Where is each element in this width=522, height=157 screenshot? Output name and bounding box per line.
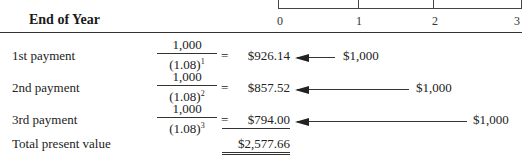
arrow-left-icon — [297, 57, 335, 58]
discount-fraction-3: 1,000 (1.08)3 — [157, 102, 217, 136]
discount-fraction-2: 1,000 (1.08)2 — [157, 70, 217, 104]
row-label-3rd-payment: 3rd payment — [12, 112, 77, 128]
total-label: Total present value — [12, 136, 111, 152]
row-label-1st-payment: 1st payment — [12, 48, 75, 64]
timeline-tick-2: 2 — [432, 14, 438, 29]
present-value-2: $857.52 — [222, 80, 290, 96]
present-value-1: $926.14 — [222, 48, 290, 64]
discount-fraction-1: 1,000 (1.08)1 — [157, 38, 217, 72]
timeline-divider-2 — [433, 0, 434, 9]
header-separator — [0, 32, 522, 33]
arrow-left-icon — [297, 89, 409, 90]
fraction-denominator: (1.08)3 — [157, 118, 217, 136]
fraction-numerator: 1,000 — [157, 38, 217, 54]
arrow-left-icon — [297, 121, 467, 122]
present-value-3: $794.00 — [222, 112, 290, 129]
row-label-2nd-payment: 2nd payment — [12, 80, 80, 96]
timeline-tick-0: 0 — [277, 14, 283, 29]
denominator-exponent: 1 — [201, 57, 205, 66]
fraction-numerator: 1,000 — [157, 102, 217, 118]
timeline-box — [278, 0, 522, 9]
denominator-exponent: 3 — [201, 121, 205, 130]
timeline-tick-3: 3 — [514, 14, 520, 29]
timeline-tick-1: 1 — [356, 14, 362, 29]
total-present-value: $2,577.66 — [222, 136, 290, 155]
denominator-exponent: 2 — [201, 89, 205, 98]
cash-flow-year-3: $1,000 — [473, 112, 509, 128]
fraction-numerator: 1,000 — [157, 70, 217, 86]
cash-flow-year-1: $1,000 — [343, 48, 379, 64]
cash-flow-year-2: $1,000 — [416, 80, 452, 96]
denominator-base: (1.08) — [169, 121, 200, 136]
column-header-end-of-year: End of Year — [29, 12, 100, 28]
timeline-divider-1 — [358, 0, 359, 9]
